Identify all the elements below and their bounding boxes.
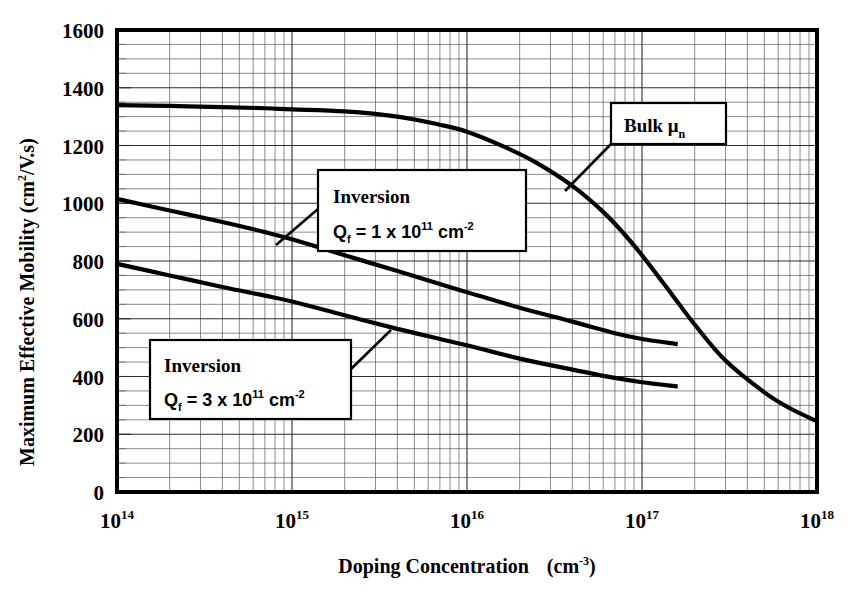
y-axis-title-tail: /V.s)	[16, 138, 39, 176]
chart-canvas: 02004006008001000120014001600 1014101510…	[0, 0, 859, 602]
x-axis-title-unit-close: )	[589, 555, 596, 578]
x-axis-title-main: Doping Concentration	[338, 555, 529, 578]
y-tick-label: 0	[94, 481, 105, 505]
svg-text:Maximum Effective Mobility (cm: Maximum Effective Mobility (cm2/V.s)	[15, 138, 39, 466]
svg-text:Doping Concentration(cm-3): Doping Concentration(cm-3)	[338, 554, 595, 578]
inversion-1-equation: = 1 x 10	[351, 222, 422, 242]
y-tick-label: 1600	[62, 19, 104, 43]
inversion-1-exponent: 11	[421, 220, 433, 232]
y-tick-label: 1000	[62, 192, 104, 216]
inversion-3-callout-line1: Inversion	[164, 355, 242, 376]
y-tick-label: 600	[73, 308, 105, 332]
y-tick-label: 800	[73, 250, 105, 274]
y-axis-title: Maximum Effective Mobility (cm2/V.s)	[15, 138, 39, 466]
inversion-3-unit: cm	[264, 390, 295, 410]
inversion-1-q-symbol: Q	[333, 222, 347, 242]
y-tick-label: 1400	[62, 77, 104, 101]
y-tick-label: 1200	[62, 135, 104, 159]
x-axis-title: Doping Concentration(cm-3)	[338, 554, 595, 578]
x-tick-base: 10	[450, 509, 471, 533]
y-tick-label: 200	[73, 423, 105, 447]
x-axis-title-unit-base: (cm	[547, 555, 580, 578]
inversion-1-callout[interactable]: Inversion Qf = 1 x 1011 cm-2	[318, 170, 526, 251]
x-tick-exponent: 14	[121, 507, 135, 522]
x-tick-exponent: 15	[296, 507, 310, 522]
inversion-3-exponent: 11	[252, 388, 264, 400]
inversion-1-callout-line1: Inversion	[333, 186, 411, 207]
x-tick-base: 10	[275, 509, 296, 533]
y-axis-title-main: Maximum Effective Mobility (cm	[16, 181, 39, 466]
inversion-3-callout[interactable]: Inversion Qf = 3 x 1011 cm-2	[150, 340, 351, 419]
x-axis-title-unit-superscript: -3	[579, 554, 589, 568]
x-tick-base: 10	[100, 509, 121, 533]
inversion-1-unit-exponent: -2	[464, 220, 474, 232]
bulk-callout-subscript: n	[679, 127, 686, 141]
inversion-1-unit: cm	[433, 222, 464, 242]
bulk-callout-label: Bulk μ	[624, 115, 679, 136]
x-tick-exponent: 17	[646, 507, 660, 522]
inversion-3-equation: = 3 x 10	[182, 390, 253, 410]
svg-text:Qf = 1 x 1011 cm-2: Qf = 1 x 1011 cm-2	[333, 220, 474, 245]
x-tick-base: 10	[625, 509, 646, 533]
x-tick-base: 10	[800, 509, 821, 533]
x-tick-exponent: 18	[821, 507, 835, 522]
y-tick-label: 400	[73, 366, 105, 390]
inversion-3-unit-exponent: -2	[295, 388, 305, 400]
inversion-3-q-symbol: Q	[164, 390, 178, 410]
mobility-vs-doping-figure: 02004006008001000120014001600 1014101510…	[0, 0, 859, 602]
bulk-callout[interactable]: Bulk μn	[611, 103, 726, 144]
x-tick-exponent: 16	[471, 507, 485, 522]
svg-text:Qf = 3 x 1011 cm-2: Qf = 3 x 1011 cm-2	[164, 388, 305, 413]
